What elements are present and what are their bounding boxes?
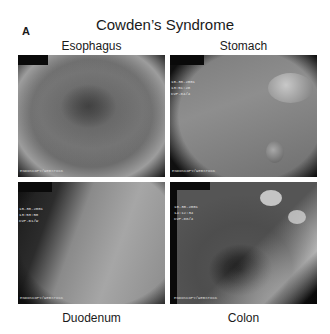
polyp — [288, 210, 306, 224]
polyp — [260, 190, 282, 206]
label-esophagus: Esophagus — [18, 39, 165, 53]
endoscope-vignette — [170, 182, 317, 304]
overlay-timestamp: 10.30.2001 13:53:50 CVP-61/W — [19, 206, 43, 224]
image-esophagus: ENDOSCOPY/WEBSTOCK — [18, 55, 165, 177]
label-duodenum: Duodenum — [18, 311, 165, 325]
overlay-black-box — [18, 182, 52, 192]
overlay-black-box — [170, 55, 204, 65]
image-credit: ENDOSCOPY/WEBSTOCK — [172, 169, 215, 173]
overlay-black-box — [18, 55, 48, 65]
polyp — [266, 141, 284, 163]
label-colon: Colon — [170, 311, 317, 325]
figure-title: Cowden’s Syndrome — [0, 16, 330, 33]
image-credit: ENDOSCOPY/WEBSTOCK — [20, 169, 63, 173]
label-stomach: Stomach — [170, 39, 317, 53]
image-credit: ENDOSCOPY/WEBSTOCK — [20, 296, 63, 300]
image-credit: ENDOSCOPY/WEBSTOCK — [174, 296, 217, 300]
image-duodenum: 10.30.2001 13:53:50 CVP-61/W ENDOSCOPY/W… — [18, 182, 165, 304]
endoscope-vignette — [18, 182, 165, 304]
left-black-border — [170, 182, 177, 304]
overlay-timestamp: 10.30.2001 14:12:34 CVP-88/4 — [174, 204, 198, 222]
image-stomach: 10.30.2001 13:51:28 CVP-84/4 ENDOSCOPY/W… — [170, 55, 317, 177]
polyp — [268, 73, 313, 103]
overlay-timestamp: 10.30.2001 13:51:28 CVP-84/4 — [171, 79, 195, 97]
endoscope-vignette — [18, 55, 165, 177]
lumen-shading — [18, 55, 165, 177]
image-colon: 10.30.2001 14:12:34 CVP-88/4 ENDOSCOPY/W… — [170, 182, 317, 304]
